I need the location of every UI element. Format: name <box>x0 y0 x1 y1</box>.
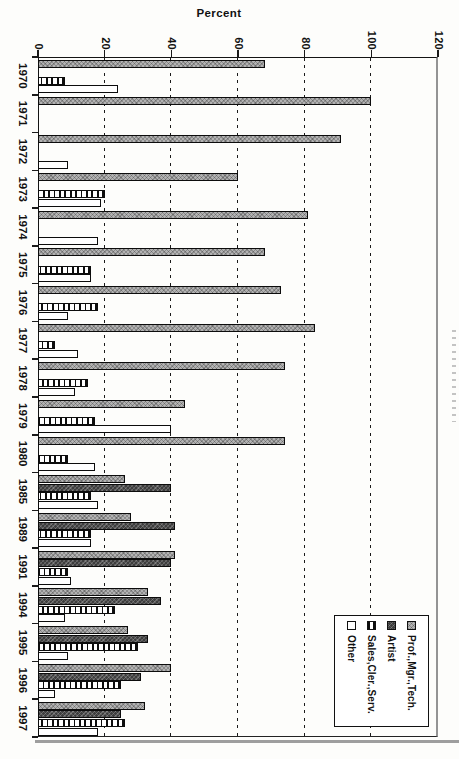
bar-prof-mgr-tech <box>38 362 285 370</box>
year-label: 1997 <box>14 699 29 737</box>
bar-other <box>38 463 95 471</box>
bar-other <box>38 690 55 698</box>
year-label: 1989 <box>14 510 29 548</box>
scan-artifact <box>452 330 456 422</box>
bar-prof-mgr-tech <box>38 135 341 143</box>
gridline-60 <box>237 58 238 736</box>
bar-prof-mgr-tech <box>38 248 265 256</box>
legend-swatch-prof-mgr-tech <box>407 621 416 630</box>
year-boundary-tick <box>32 585 38 587</box>
year-boundary-tick <box>32 661 38 663</box>
year-boundary-tick <box>32 698 38 700</box>
bar-prof-mgr-tech <box>38 551 175 559</box>
bar-prof-mgr-tech <box>38 702 145 710</box>
bar-prof-mgr-tech <box>38 664 171 672</box>
year-label: 1976 <box>14 284 29 322</box>
percent-axis-tick <box>304 50 306 57</box>
year-boundary-tick <box>32 56 38 58</box>
bar-other <box>38 388 75 396</box>
bar-other <box>38 614 65 622</box>
year-boundary-tick <box>32 170 38 172</box>
year-label: 1971 <box>14 95 29 133</box>
percent-axis-tick <box>237 50 239 57</box>
percent-tick-label: 100 <box>366 14 378 50</box>
bar-prof-mgr-tech <box>38 475 125 483</box>
bar-other <box>38 161 68 169</box>
legend-swatch-sales-cler-serv <box>367 621 376 630</box>
legend-label: Other <box>346 635 357 662</box>
bar-sales-cler-serv <box>38 719 125 727</box>
year-label: 1978 <box>14 359 29 397</box>
bar-prof-mgr-tech <box>38 286 281 294</box>
legend-item: Other <box>346 621 357 721</box>
bar-other <box>38 350 78 358</box>
year-boundary-tick <box>32 207 38 209</box>
bar-sales-cler-serv <box>38 379 88 387</box>
bar-sales-cler-serv <box>38 568 68 576</box>
bar-artist <box>38 522 175 530</box>
bar-prof-mgr-tech <box>38 626 128 634</box>
year-label: 1991 <box>14 548 29 586</box>
percent-tick-label: 60 <box>233 14 245 50</box>
year-label: 1975 <box>14 246 29 284</box>
year-boundary-tick <box>32 510 38 512</box>
percent-tick-label: 120 <box>433 14 445 50</box>
year-boundary-tick <box>32 396 38 398</box>
bar-other <box>38 577 71 585</box>
gridline-80 <box>304 58 305 736</box>
legend-label: Prof.,Mgr.,Tech. <box>406 635 417 711</box>
scan-edge-shadow <box>35 740 459 743</box>
legend-item: Artist <box>386 621 397 721</box>
bar-prof-mgr-tech <box>38 60 265 68</box>
year-boundary-tick <box>32 321 38 323</box>
bar-sales-cler-serv <box>38 190 105 198</box>
bar-other <box>38 199 101 207</box>
percent-axis-tick <box>371 50 373 57</box>
bar-other <box>38 539 91 547</box>
bar-prof-mgr-tech <box>38 173 238 181</box>
bar-prof-mgr-tech <box>38 437 285 445</box>
bar-prof-mgr-tech <box>38 400 185 408</box>
year-boundary-tick <box>32 472 38 474</box>
bar-artist <box>38 673 141 681</box>
year-boundary-tick <box>32 283 38 285</box>
year-boundary-tick <box>32 623 38 625</box>
year-label: 1977 <box>14 321 29 359</box>
bar-sales-cler-serv <box>38 455 68 463</box>
bar-prof-mgr-tech <box>38 97 371 105</box>
bar-other <box>38 652 68 660</box>
percent-axis-tick <box>171 50 173 57</box>
bar-artist <box>38 597 161 605</box>
percent-tick-label: 40 <box>166 14 178 50</box>
bar-other <box>38 274 91 282</box>
year-label: 1994 <box>14 586 29 624</box>
bar-sales-cler-serv <box>38 417 95 425</box>
legend-label: Sales,Cler.,Serv. <box>366 635 377 714</box>
bar-prof-mgr-tech <box>38 211 308 219</box>
bar-prof-mgr-tech <box>38 324 315 332</box>
bar-sales-cler-serv <box>38 492 91 500</box>
bar-artist <box>38 484 171 492</box>
legend-label: Artist <box>386 635 397 662</box>
bar-prof-mgr-tech <box>38 588 148 596</box>
year-boundary-tick <box>32 94 38 96</box>
year-label: 1985 <box>14 473 29 511</box>
percent-tick-label: 80 <box>300 14 312 50</box>
legend: Prof.,Mgr.,Tech.ArtistSales,Cler.,Serv.O… <box>334 615 429 727</box>
bar-sales-cler-serv <box>38 77 65 85</box>
year-boundary-tick <box>32 132 38 134</box>
percent-tick-label: 0 <box>33 14 45 50</box>
year-label: 1996 <box>14 661 29 699</box>
bar-other <box>38 501 98 509</box>
year-label: 1973 <box>14 170 29 208</box>
gridline-40 <box>170 58 171 736</box>
bar-other <box>38 425 171 433</box>
rotated-chart-canvas: Percent Prof.,Mgr.,Tech.ArtistSales,Cler… <box>0 0 459 759</box>
legend-item: Sales,Cler.,Serv. <box>366 621 377 721</box>
chart-page: Percent Prof.,Mgr.,Tech.ArtistSales,Cler… <box>0 0 459 759</box>
legend-swatch-artist <box>387 621 396 630</box>
year-boundary-tick <box>32 245 38 247</box>
year-label: 1980 <box>14 435 29 473</box>
bar-artist <box>38 710 121 718</box>
legend-swatch-other <box>347 621 356 630</box>
